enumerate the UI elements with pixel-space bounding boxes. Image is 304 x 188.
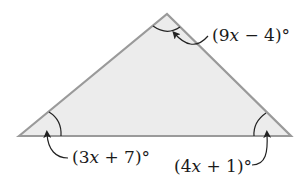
angle-label-right: (4x + 1)° (174, 156, 252, 176)
triangle-diagram: (9x − 4)° (3x + 7)° (4x + 1)° (0, 0, 304, 188)
arrow-left (47, 134, 68, 158)
angle-label-top: (9x − 4)° (212, 25, 290, 45)
angle-label-left: (3x + 7)° (72, 147, 150, 167)
arrow-right (252, 134, 267, 165)
